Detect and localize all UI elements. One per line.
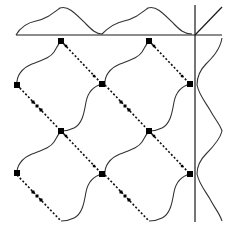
tile-dotted-edge bbox=[61, 41, 102, 84]
tile-curved-edge bbox=[149, 84, 190, 131]
dotted-edge-bead bbox=[124, 195, 127, 198]
tile-dotted-edge bbox=[149, 41, 190, 84]
tile-dotted-edge bbox=[105, 175, 149, 221]
vertex-node bbox=[58, 38, 64, 44]
dotted-edge-bead bbox=[120, 101, 123, 104]
vertex-node bbox=[14, 170, 20, 176]
vertex-node bbox=[146, 38, 152, 44]
dotted-edge-bead bbox=[32, 191, 35, 194]
tile-curved-edge bbox=[149, 174, 190, 221]
tile-curved-edge bbox=[17, 41, 61, 85]
tile-curved-edge bbox=[105, 131, 149, 175]
tiling-diagram bbox=[0, 0, 238, 230]
dotted-edge-bead bbox=[40, 109, 43, 112]
dotted-edge-bead bbox=[124, 105, 127, 108]
vertex-node bbox=[187, 81, 193, 87]
tile-dotted-edge bbox=[61, 131, 102, 174]
dotted-edge-bead bbox=[36, 105, 39, 108]
tile-curved-edge bbox=[61, 84, 102, 131]
tile-curved-edge bbox=[105, 41, 149, 85]
dotted-edge-bead bbox=[93, 165, 95, 167]
tile-dotted-edge bbox=[105, 85, 149, 131]
dotted-edge-bead bbox=[153, 135, 155, 137]
tile-curved-edge bbox=[17, 131, 61, 175]
tile-dotted-edge bbox=[17, 85, 61, 131]
tile-bottom-right bbox=[105, 131, 190, 221]
dotted-edge-bead bbox=[65, 135, 67, 137]
right-profile-curve bbox=[197, 38, 222, 221]
tile-curved-edge bbox=[61, 174, 102, 221]
vertex-node bbox=[99, 81, 105, 87]
dotted-edge-bead bbox=[120, 191, 123, 194]
vertex-node bbox=[14, 82, 20, 88]
tile-bottom-left bbox=[17, 131, 102, 221]
vertex-node bbox=[99, 171, 105, 177]
diagonal-line bbox=[195, 7, 222, 35]
dotted-edge-bead bbox=[36, 195, 39, 198]
dotted-edge-bead bbox=[65, 45, 67, 47]
dotted-edge-bead bbox=[32, 101, 35, 104]
tile-grid bbox=[17, 41, 190, 221]
top-profile-curve bbox=[16, 7, 192, 35]
dotted-edge-bead bbox=[128, 109, 131, 112]
tile-top-left bbox=[17, 41, 102, 131]
dotted-edge-bead bbox=[153, 45, 155, 47]
tile-dotted-edge bbox=[149, 131, 190, 174]
tile-top-right bbox=[105, 41, 190, 131]
vertex-node bbox=[58, 128, 64, 134]
dotted-edge-bead bbox=[181, 165, 183, 167]
dotted-edge-bead bbox=[40, 199, 43, 202]
dotted-edge-bead bbox=[181, 75, 183, 77]
vertex-node bbox=[187, 171, 193, 177]
tile-dotted-edge bbox=[17, 175, 61, 221]
vertex-node bbox=[146, 128, 152, 134]
dotted-edge-bead bbox=[128, 199, 131, 202]
dotted-edge-bead bbox=[93, 75, 95, 77]
